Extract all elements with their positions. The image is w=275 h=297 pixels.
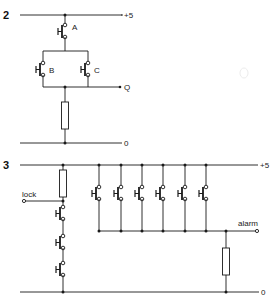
circuit-2-bottom-rail-label: 0 <box>124 139 129 148</box>
switch-c-label: C <box>94 66 100 75</box>
pullup-resistor-icon <box>60 170 67 197</box>
parallel-switch-icon <box>114 185 123 201</box>
circuit-2-top-rail-label: +5 <box>124 11 134 20</box>
parallel-switch-3 <box>135 164 144 233</box>
pulldown-resistor-icon <box>223 248 230 275</box>
series-switch-1-icon <box>56 205 65 221</box>
parallel-switch-6 <box>199 164 208 233</box>
parallel-switch-icon <box>199 185 208 201</box>
circuit-3-bottom-rail-label: 0 <box>261 288 266 297</box>
parallel-switch-1 <box>92 164 101 233</box>
parallel-switch-icon <box>92 185 101 201</box>
circuit-3-top-rail-label: +5 <box>260 161 270 170</box>
parallel-switch-icon <box>178 185 187 201</box>
circuit-3-number: 3 <box>3 159 9 171</box>
circuit-diagram-canvas: 2 +5 A B C Q 0 <box>0 0 275 297</box>
series-switch-2-icon <box>56 234 65 250</box>
resistor-icon <box>62 102 69 129</box>
switch-a-label: A <box>72 23 78 32</box>
lock-input-label: lock <box>22 190 37 199</box>
circuit-3: 3 +5 lock <box>3 159 270 297</box>
alarm-output-terminal <box>255 229 258 232</box>
parallel-switch-4 <box>156 164 165 233</box>
parallel-switch-icon <box>156 185 165 201</box>
lock-input-terminal <box>22 199 25 202</box>
parallel-switch-5 <box>178 164 187 233</box>
output-q-terminal <box>119 86 122 89</box>
series-switch-3-icon <box>56 261 65 277</box>
switch-b-label: B <box>49 66 54 75</box>
switch-c-icon <box>81 61 90 77</box>
switch-b-icon <box>36 61 45 77</box>
circuit-2-number: 2 <box>3 9 9 21</box>
parallel-switch-icon <box>135 185 144 201</box>
parallel-switch-2 <box>114 164 123 233</box>
switch-a-icon <box>58 23 67 39</box>
output-q-label: Q <box>124 83 130 92</box>
circuit-2: 2 +5 A B C Q 0 <box>3 9 134 148</box>
alarm-output-label: alarm <box>238 219 258 228</box>
